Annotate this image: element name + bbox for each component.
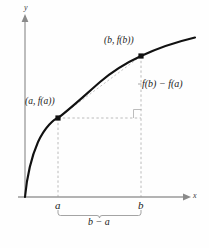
- x-tick-label-b: b: [138, 200, 144, 211]
- rise-annotation-label: f(b) − f(a): [142, 79, 183, 89]
- y-axis-label: y: [24, 4, 28, 12]
- point-marker-b: [138, 53, 143, 58]
- point-label-b: (b, f(b)): [104, 36, 134, 46]
- x-axis-label: x: [193, 192, 197, 200]
- point-marker-a: [55, 115, 60, 120]
- run-annotation-label: b − a: [88, 217, 110, 227]
- mean-value-theorem-figure: y x a b (a, f(a)) (b, f(b)) f(b) − f(a) …: [0, 0, 209, 248]
- point-label-a: (a, f(a)): [25, 97, 55, 107]
- x-tick-label-a: a: [55, 200, 61, 211]
